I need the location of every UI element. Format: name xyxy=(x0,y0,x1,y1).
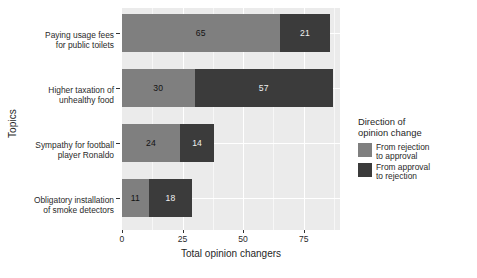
x-tick-label-50: 50 xyxy=(238,234,248,244)
gridline-minor-87_5 xyxy=(334,8,335,230)
y-axis-title: Topics xyxy=(7,94,18,154)
bar-value-1-rejection: 57 xyxy=(259,83,269,93)
bar-segment-3-approval[interactable]: 11 xyxy=(122,179,149,217)
y-tick-label-2-line1: Sympathy for football xyxy=(35,140,114,150)
y-tick-label-3: Obligatory installation of smoke detecto… xyxy=(18,196,114,215)
legend-label-rejection-line2: to rejection xyxy=(376,171,417,181)
bar-segment-3-rejection[interactable]: 18 xyxy=(149,179,193,217)
y-tick-label-0-line1: Paying usage fees xyxy=(45,30,114,40)
bar-value-1-approval: 30 xyxy=(153,83,163,93)
legend: Direction of opinion change From rejecti… xyxy=(358,116,470,183)
y-tick-label-1: Higher taxation of unhealthy food xyxy=(18,86,114,105)
bar-segment-2-rejection[interactable]: 14 xyxy=(180,124,214,162)
bar-value-3-rejection: 18 xyxy=(166,193,176,203)
x-tick-label-25: 25 xyxy=(178,234,188,244)
legend-item-approval[interactable]: From rejection to approval xyxy=(358,143,470,162)
y-axis-tick-labels: Paying usage fees for public toilets Hig… xyxy=(18,8,114,230)
x-axis-title: Total opinion changers xyxy=(122,248,340,259)
bar-segment-1-rejection[interactable]: 57 xyxy=(195,69,333,107)
y-tick-label-1-line1: Higher taxation of xyxy=(48,85,114,95)
legend-title: Direction of opinion change xyxy=(358,116,470,138)
bar-segment-2-approval[interactable]: 24 xyxy=(122,124,180,162)
legend-item-rejection[interactable]: From approval to rejection xyxy=(358,163,470,182)
x-tick-label-0: 0 xyxy=(120,234,125,244)
bar-value-2-rejection: 14 xyxy=(192,138,202,148)
x-tick-mark-75 xyxy=(304,230,305,233)
x-tick-mark-0 xyxy=(122,230,123,233)
y-tick-label-3-line2: of smoke detectors xyxy=(43,205,114,215)
y-tick-label-0-line2: for public toilets xyxy=(56,40,114,50)
y-tick-label-2-line2: player Ronaldo xyxy=(58,150,114,160)
legend-label-approval: From rejection to approval xyxy=(376,143,430,162)
legend-key-approval-swatch xyxy=(358,143,372,157)
y-tick-mark-3 xyxy=(116,198,120,199)
legend-title-line2: opinion change xyxy=(358,127,422,138)
y-tick-label-1-line2: unhealthy food xyxy=(59,95,114,105)
bar-segment-0-rejection[interactable]: 21 xyxy=(280,14,331,52)
legend-label-approval-line2: to approval xyxy=(376,151,417,161)
y-tick-label-3-line1: Obligatory installation xyxy=(34,195,114,205)
y-tick-mark-1 xyxy=(116,88,120,89)
y-tick-mark-2 xyxy=(116,143,120,144)
bar-value-0-approval: 65 xyxy=(196,28,206,38)
y-tick-label-0: Paying usage fees for public toilets xyxy=(18,31,114,50)
legend-key-rejection-swatch xyxy=(358,163,372,177)
bar-value-2-approval: 24 xyxy=(146,138,156,148)
x-tick-mark-50 xyxy=(243,230,244,233)
bar-segment-0-approval[interactable]: 65 xyxy=(122,14,280,52)
y-tick-mark-0 xyxy=(116,33,120,34)
chart-figure: Topics Paying usage fees for public toil… xyxy=(0,0,477,278)
bar-value-0-rejection: 21 xyxy=(300,28,310,38)
plot-panel: 65 21 30 57 24 14 11 xyxy=(122,8,340,230)
bar-value-3-approval: 11 xyxy=(131,193,140,203)
y-tick-label-2: Sympathy for football player Ronaldo xyxy=(18,141,114,160)
x-tick-label-75: 75 xyxy=(299,234,309,244)
legend-label-rejection: From approval to rejection xyxy=(376,163,430,182)
x-tick-mark-25 xyxy=(183,230,184,233)
legend-title-line1: Direction of xyxy=(358,116,405,127)
bar-segment-1-approval[interactable]: 30 xyxy=(122,69,195,107)
x-axis-ticks: 0 25 50 75 xyxy=(122,230,340,244)
